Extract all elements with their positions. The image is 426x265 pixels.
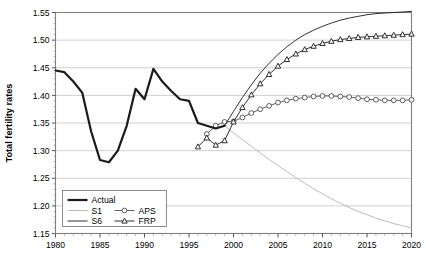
xtick-label: 1990 <box>135 240 154 250</box>
fertility-rates-line-chart: 198019851990199520002005201020152020 1.1… <box>0 0 426 265</box>
marker-aps <box>329 94 334 99</box>
legend-marker-aps <box>122 208 127 213</box>
legend-label-s6: S6 <box>92 216 103 226</box>
ytick-label: 1.40 <box>33 91 50 101</box>
xtick-label: 2015 <box>357 240 376 250</box>
marker-aps <box>400 98 405 103</box>
xtick-label: 2020 <box>402 240 421 250</box>
marker-aps <box>267 103 272 108</box>
y-axis-title-text: Total fertility rates <box>4 84 14 163</box>
ytick-label: 1.35 <box>33 118 50 128</box>
marker-aps <box>320 94 325 99</box>
y-axis-tick-labels: 1.151.201.251.301.351.401.451.501.55 <box>33 8 50 239</box>
ytick-label: 1.15 <box>33 229 50 239</box>
marker-aps <box>356 96 361 101</box>
xtick-label: 1995 <box>179 240 198 250</box>
xtick-label: 2000 <box>224 240 243 250</box>
xtick-label: 2005 <box>268 240 287 250</box>
legend-label-s1: S1 <box>92 206 103 216</box>
ytick-label: 1.50 <box>33 35 50 45</box>
ytick-label: 1.55 <box>33 8 50 18</box>
legend-label-frp: FRP <box>139 216 156 226</box>
y-axis-title: Total fertility rates <box>4 84 14 163</box>
marker-aps <box>249 111 254 116</box>
x-axis-tick-labels: 198019851990199520002005201020152020 <box>46 240 421 250</box>
marker-aps <box>374 97 379 102</box>
ytick-label: 1.25 <box>33 173 50 183</box>
marker-aps <box>293 96 298 101</box>
marker-aps <box>258 107 263 112</box>
legend-label-aps: APS <box>139 206 156 216</box>
marker-aps <box>365 97 370 102</box>
ytick-label: 1.45 <box>33 63 50 73</box>
ytick-label: 1.30 <box>33 146 50 156</box>
marker-aps <box>302 95 307 100</box>
xtick-label: 1985 <box>90 240 109 250</box>
marker-aps <box>240 115 245 120</box>
marker-aps <box>338 94 343 99</box>
marker-aps <box>276 100 281 105</box>
marker-aps <box>285 98 290 103</box>
chart-legend: ActualS1APSS6FRP <box>63 191 167 227</box>
marker-aps <box>311 94 316 99</box>
chart-figure: 198019851990199520002005201020152020 1.1… <box>0 0 426 265</box>
ytick-label: 1.20 <box>33 201 50 211</box>
marker-aps <box>391 98 396 103</box>
marker-aps <box>409 97 414 102</box>
marker-aps <box>347 95 352 100</box>
marker-aps <box>382 98 387 103</box>
legend-label-actual: Actual <box>92 195 116 205</box>
xtick-label: 1980 <box>46 240 65 250</box>
xtick-label: 2010 <box>313 240 332 250</box>
